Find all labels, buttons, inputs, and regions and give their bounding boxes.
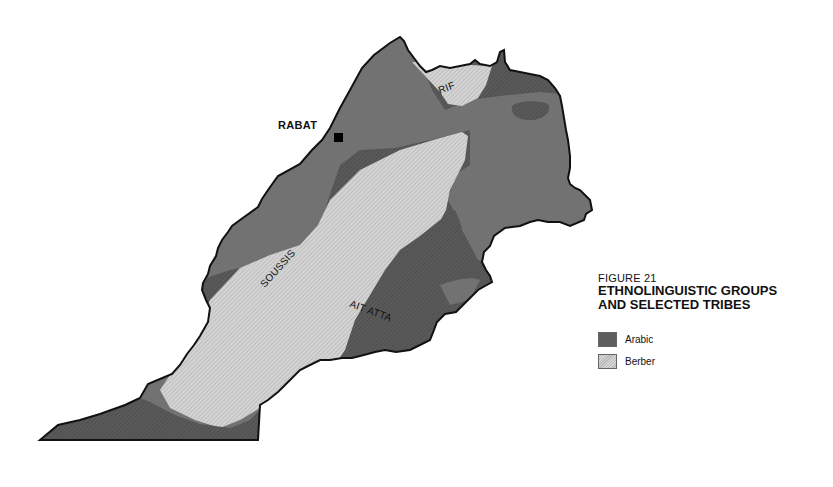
map-legend: FIGURE 21 ETHNOLINGUISTIC GROUPS AND SEL… [598, 272, 828, 372]
legend-item-berber: Berber [598, 350, 828, 372]
berber-swatch-icon [598, 354, 617, 369]
map-container: RABAT RIF SOUSSIS AIT ATTA [0, 0, 833, 487]
figure-title-line2: AND SELECTED TRIBES [598, 298, 828, 312]
region-fills [0, 0, 833, 487]
rabat-city-marker-icon [334, 133, 343, 142]
morocco-map [0, 0, 833, 487]
legend-item-arabic: Arabic [598, 328, 828, 350]
legend-list: Arabic Berber [598, 328, 828, 372]
figure-title-line1: ETHNOLINGUISTIC GROUPS [598, 284, 828, 298]
legend-label-arabic: Arabic [625, 334, 653, 345]
arabic-swatch-icon [598, 332, 617, 347]
rabat-city-label: RABAT [278, 119, 317, 131]
legend-label-berber: Berber [625, 356, 655, 367]
